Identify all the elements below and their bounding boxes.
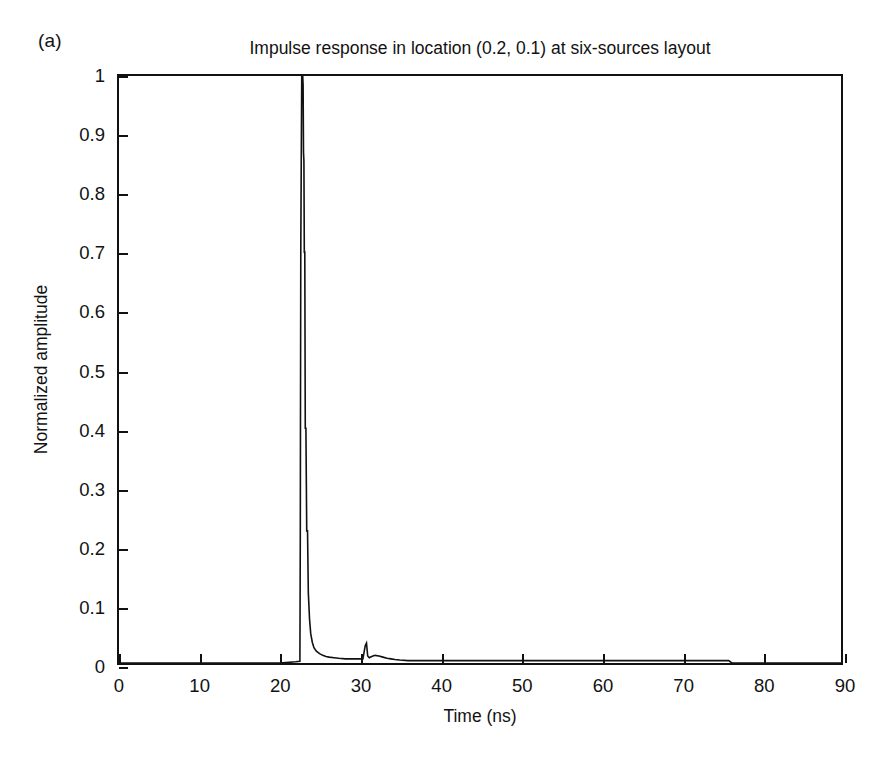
x-axis-tick (119, 654, 121, 663)
x-axis-tick-label: 80 (754, 675, 775, 697)
y-axis-tick (119, 312, 128, 314)
y-axis-tick-label: 0.2 (79, 538, 105, 560)
x-axis-tick-label: 60 (593, 675, 614, 697)
y-axis-tick-label: 0.9 (79, 124, 105, 146)
x-axis-tick (442, 654, 444, 663)
y-axis-tick-label: 0.5 (79, 361, 105, 383)
x-axis-tick-label: 10 (189, 675, 210, 697)
y-axis-tick-label: 0.6 (79, 301, 105, 323)
y-axis-tick-label: 0.7 (79, 242, 105, 264)
y-axis-tick (119, 194, 128, 196)
y-axis-tick (119, 372, 128, 374)
x-axis-tick (684, 654, 686, 663)
y-axis-tick (119, 431, 128, 433)
x-axis-tick (522, 654, 524, 663)
figure-root: (a) Impulse response in location (0.2, 0… (0, 0, 894, 778)
y-axis-tick (119, 608, 128, 610)
y-axis-tick (119, 667, 128, 669)
x-axis-tick (603, 654, 605, 663)
x-axis-tick (280, 654, 282, 663)
x-axis-tick-label: 90 (835, 675, 856, 697)
y-axis-tick-label: 0 (95, 656, 105, 678)
x-axis-tick (200, 654, 202, 663)
x-axis-tick-label: 20 (270, 675, 291, 697)
y-axis-tick-label: 0.4 (79, 420, 105, 442)
y-axis-tick-label: 0.1 (79, 597, 105, 619)
x-axis-tick (361, 654, 363, 663)
x-axis-tick-label: 40 (431, 675, 452, 697)
series-polyline (119, 76, 841, 663)
y-axis-tick-label: 1 (95, 65, 105, 87)
y-axis-title-text: Normalized amplitude (32, 285, 53, 454)
x-axis-title: Time (ns) (117, 706, 843, 727)
impulse-response-line-series (119, 76, 841, 663)
x-axis-tick-label: 0 (114, 675, 124, 697)
y-axis-tick (119, 76, 128, 78)
x-axis-tick (764, 654, 766, 663)
x-axis-tick-label: 70 (673, 675, 694, 697)
y-axis-tick (119, 253, 128, 255)
x-axis-tick (845, 654, 847, 663)
y-axis-tick (119, 490, 128, 492)
y-axis-title: Normalized amplitude (30, 74, 54, 665)
plot-area: 00.10.20.30.40.50.60.70.80.9101020304050… (117, 74, 843, 665)
y-axis-tick-label: 0.3 (79, 479, 105, 501)
panel-label: (a) (38, 30, 62, 52)
y-axis-tick (119, 135, 128, 137)
x-axis-tick-label: 50 (512, 675, 533, 697)
y-axis-tick-label: 0.8 (79, 183, 105, 205)
y-axis-tick (119, 549, 128, 551)
x-axis-tick-label: 30 (351, 675, 372, 697)
chart-title: Impulse response in location (0.2, 0.1) … (117, 38, 843, 59)
